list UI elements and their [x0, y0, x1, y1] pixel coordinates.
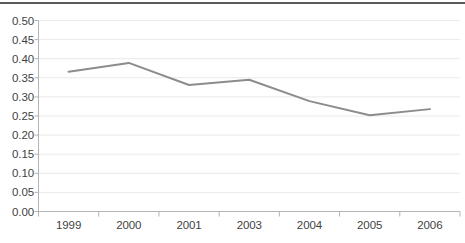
y-axis-tick-label-text: 0.40: [0, 53, 34, 65]
y-axis-tick-label-text: 0.20: [0, 129, 34, 141]
y-axis-tick-label-text: 0.15: [0, 148, 34, 160]
x-axis-tick-label-text: 2004: [297, 219, 322, 231]
y-axis-tick-label: 0.20: [0, 129, 34, 141]
plot-area: [0, 0, 465, 243]
x-axis-tick-label: 1999: [39, 215, 99, 229]
y-axis-tick-label: 0.10: [0, 167, 34, 179]
y-axis-tick-label: 0.25: [0, 110, 34, 122]
line-chart: 0.000.050.100.150.200.250.300.350.400.45…: [0, 0, 465, 243]
y-axis-tick-label: 0.40: [0, 53, 34, 65]
x-axis-tick-label: 2006: [400, 215, 460, 229]
gridlines: [39, 21, 461, 193]
x-axis-tick-label: 2001: [159, 215, 219, 229]
y-axis-tick-label: 0.15: [0, 148, 34, 160]
x-axis-tick-label: 2005: [340, 215, 400, 229]
y-axis-tick-label-text: 0.25: [0, 110, 34, 122]
y-axis-tick-label-text: 0.45: [0, 34, 34, 46]
x-axis-tick-label-text: 2000: [116, 219, 141, 231]
y-axis-tick-label: 0.30: [0, 91, 34, 103]
y-axis-tick-label: 0.45: [0, 34, 34, 46]
y-axis-tick-label-text: 0.10: [0, 167, 34, 179]
y-axis-tick-label-text: 0.05: [0, 186, 34, 198]
series-line-series-1: [69, 63, 430, 115]
y-axis-tick-label: 0.35: [0, 72, 34, 84]
y-axis-tick-label-text: 0.35: [0, 72, 34, 84]
y-axis-tick-label-text: 0.30: [0, 91, 34, 103]
x-axis-tick-label-text: 2006: [417, 219, 442, 231]
y-axis-tick-label: 0.05: [0, 186, 34, 198]
y-axis-tick-label: 0.00: [0, 206, 34, 218]
x-axis-tick-label-text: 2005: [357, 219, 382, 231]
x-axis-tick-label-text: 2001: [176, 219, 201, 231]
y-axis-tick-label: 0.50: [0, 15, 34, 27]
x-axis-tick-label: 2003: [219, 215, 279, 229]
x-axis-tick-label: 2004: [279, 215, 339, 229]
y-axis-tick-label-text: 0.00: [0, 206, 34, 218]
x-axis-tick-label: 2000: [99, 215, 159, 229]
x-axis-tick-label-text: 1999: [56, 219, 81, 231]
x-axis-tick-label-text: 2003: [237, 219, 262, 231]
data-series-line: [69, 63, 430, 115]
y-axis-tick-label-text: 0.50: [0, 15, 34, 27]
